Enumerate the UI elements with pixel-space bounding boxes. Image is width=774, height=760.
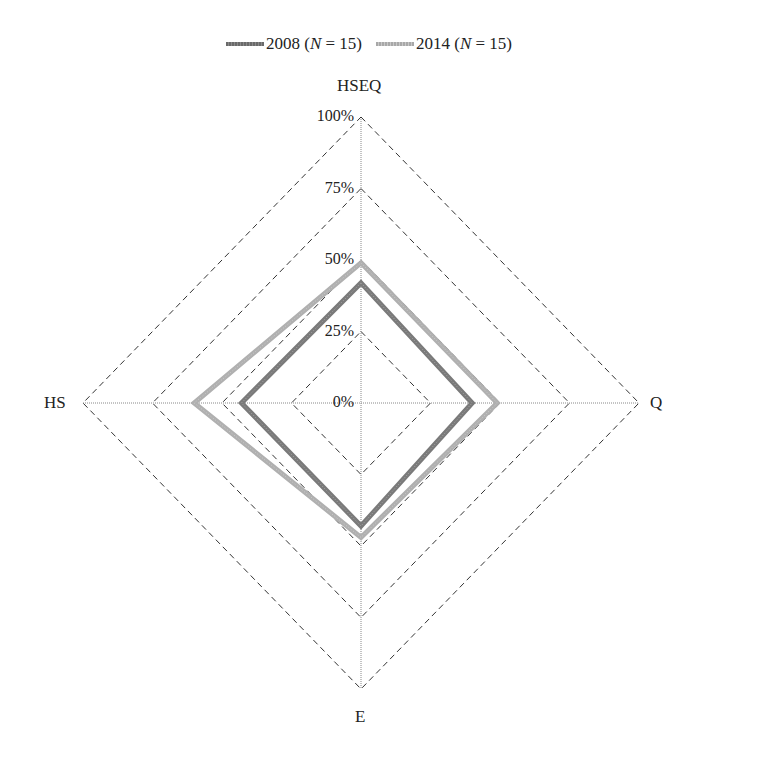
legend-item-2014: 2014 (N = 15) (376, 34, 512, 54)
legend-label-2014: 2014 (N = 15) (416, 34, 512, 54)
axis-label-hs: HS (44, 393, 66, 413)
tick-label-0: 0% (304, 393, 354, 411)
tick-label-25: 25% (304, 322, 354, 340)
axis-label-e: E (355, 707, 365, 727)
axis-label-q: Q (650, 393, 662, 413)
legend-swatch-2008 (226, 42, 264, 46)
axis-label-hseq: HSEQ (337, 76, 381, 96)
tick-label-50: 50% (304, 250, 354, 268)
radar-chart (0, 0, 774, 760)
legend-swatch-2014 (376, 42, 414, 46)
tick-label-100: 100% (304, 107, 354, 125)
legend-item-2008: 2008 (N = 15) (226, 34, 362, 54)
series-texture-2008 (241, 283, 472, 526)
legend: 2008 (N = 15) 2014 (N = 15) (226, 34, 526, 54)
legend-label-2008: 2008 (N = 15) (266, 34, 362, 54)
tick-label-75: 75% (304, 179, 354, 197)
series-2008 (241, 283, 472, 526)
